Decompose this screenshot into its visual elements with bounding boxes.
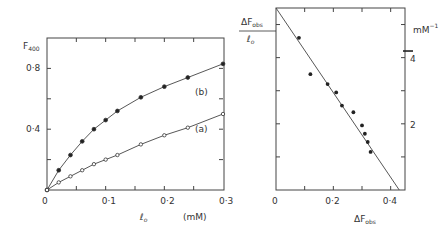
x-axis-label: ΔFobs (354, 214, 376, 225)
data-point (57, 168, 61, 172)
x-tick-label: 0 (272, 196, 278, 206)
x-tick-label: 0·4 (383, 196, 398, 206)
data-point (57, 181, 60, 184)
y-tick-label: 0·8 (26, 63, 41, 73)
data-point (360, 124, 364, 128)
data-point (104, 118, 108, 122)
x-tick-label: 0·2 (325, 196, 339, 206)
x-axis-unit: (mM) (183, 212, 207, 222)
y-axis-label-denominator: ℓo (246, 34, 255, 45)
series-label-a: (a) (195, 124, 208, 134)
data-point (116, 109, 120, 113)
plot-frame (276, 8, 405, 190)
data-point (45, 188, 48, 191)
data-point (186, 126, 189, 129)
series-label-b: (b) (195, 87, 208, 97)
data-point (186, 76, 190, 80)
data-point (81, 169, 84, 172)
x-tick-label: 0·2 (160, 196, 174, 206)
y-tick-label: 2 (410, 120, 416, 130)
data-point (334, 90, 338, 94)
data-point (309, 72, 313, 76)
y-axis-label: F400 (23, 41, 40, 52)
figure: 00·10·20·30·40·8F400ℓo(mM)(b)(a) 00·20·4… (0, 0, 448, 233)
right-panel: 00·20·424mM−1ΔFobsℓoΔFobs (239, 8, 439, 225)
x-axis-label: ℓo (139, 212, 148, 223)
data-point (92, 127, 96, 131)
y-tick-label: 0·4 (26, 124, 41, 134)
data-point (366, 140, 370, 144)
data-point (139, 95, 143, 99)
data-point (139, 143, 142, 146)
data-point (162, 85, 166, 89)
data-point (163, 134, 166, 137)
data-point (326, 82, 330, 86)
x-tick-label: 0·3 (219, 196, 233, 206)
data-point (69, 175, 72, 178)
x-tick-label: 0 (42, 196, 48, 206)
data-point (340, 104, 344, 108)
data-point (221, 62, 225, 66)
data-point (363, 132, 367, 136)
left-panel: 00·10·20·30·40·8F400ℓo(mM)(b)(a) (23, 38, 233, 223)
data-point (297, 36, 301, 40)
data-point (92, 162, 95, 165)
data-point (104, 158, 107, 161)
x-tick-label: 0·1 (102, 196, 116, 206)
data-point (352, 110, 356, 114)
data-point (69, 153, 73, 157)
data-point (116, 153, 119, 156)
y-axis-unit: mM−1 (413, 22, 439, 35)
fit-line (276, 8, 399, 190)
data-point (221, 112, 224, 115)
y-tick-label: 4 (410, 54, 416, 64)
data-point (369, 150, 373, 154)
y-axis-label-numerator: ΔFobs (241, 17, 263, 28)
data-point (80, 139, 84, 143)
plot-frame (47, 38, 224, 190)
